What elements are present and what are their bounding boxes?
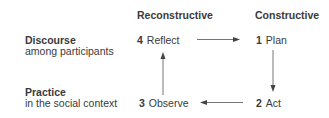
arrowhead-right-icon bbox=[233, 37, 240, 42]
arrowhead-up-icon bbox=[161, 52, 166, 59]
arrowhead-down-icon bbox=[271, 85, 276, 92]
arrowhead-left-icon bbox=[200, 100, 207, 105]
cycle-arrows bbox=[0, 0, 329, 118]
